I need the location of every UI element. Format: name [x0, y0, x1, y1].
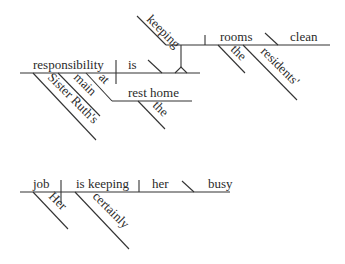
word-at: at — [96, 70, 114, 88]
word-busy: busy — [208, 176, 233, 191]
word-her: her — [152, 176, 169, 191]
word-keeping: keeping — [144, 12, 184, 52]
sentence-diagram: keeping rooms clean the residents' respo… — [0, 0, 345, 264]
word-clean: clean — [290, 29, 318, 44]
word-job: job — [32, 176, 50, 191]
word-rooms: rooms — [220, 29, 253, 44]
word-residents: residents' — [258, 44, 303, 89]
predicate-noun-divider — [148, 60, 162, 73]
stilt-base — [175, 67, 187, 73]
word-is-keeping: is keeping — [76, 176, 130, 191]
word-responsibility: responsibility — [33, 57, 104, 72]
word-rest-home: rest home — [128, 85, 179, 100]
complement-divider — [265, 33, 278, 45]
word-is: is — [128, 57, 137, 72]
complement-divider-2 — [182, 181, 194, 192]
word-certainly: certainly — [90, 189, 133, 232]
